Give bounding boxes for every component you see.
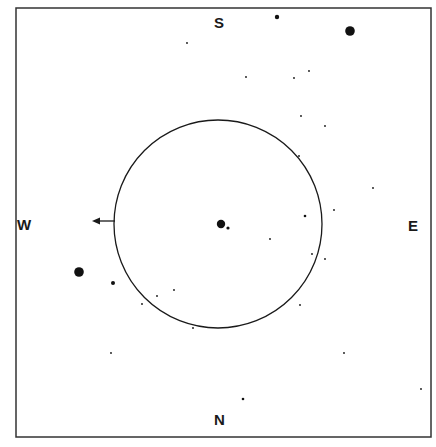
star	[300, 115, 302, 117]
star	[74, 267, 84, 277]
star	[304, 215, 307, 218]
compass-south-label: S	[214, 15, 224, 30]
compass-east-label: E	[408, 218, 418, 233]
star	[345, 26, 355, 36]
star-chart	[0, 0, 436, 447]
star	[141, 303, 143, 305]
star	[111, 281, 115, 285]
star	[420, 388, 422, 390]
star	[245, 76, 247, 78]
star	[226, 226, 229, 229]
star	[333, 209, 335, 211]
star	[192, 327, 194, 329]
star	[186, 42, 188, 44]
star	[324, 125, 326, 127]
star	[293, 77, 295, 79]
star	[299, 304, 301, 306]
star	[242, 398, 245, 401]
star	[156, 295, 158, 297]
compass-west-label: W	[17, 217, 31, 232]
star	[275, 15, 279, 19]
star	[110, 352, 112, 354]
star	[298, 155, 300, 157]
star	[311, 253, 313, 255]
star-field	[74, 15, 422, 401]
star	[269, 238, 271, 240]
star	[372, 187, 374, 189]
star	[324, 258, 326, 260]
star	[173, 289, 175, 291]
west-arrow-icon	[92, 218, 115, 225]
star	[343, 352, 345, 354]
star	[308, 70, 310, 72]
compass-north-label: N	[214, 412, 225, 427]
star	[217, 220, 225, 228]
